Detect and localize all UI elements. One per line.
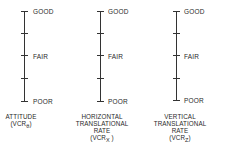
vcr-subscript: θ (26, 123, 29, 129)
vertical-caption: VERTICAL TRANSLATIONAL RATE (VCRZ) (144, 113, 216, 142)
attitude-label-poor: POOR (33, 98, 53, 105)
vertical-tick-4 (173, 78, 180, 79)
horizontal-caption-line-1: HORIZONTAL (66, 113, 138, 120)
horizontal-tick-2 (97, 33, 104, 34)
vcr-prefix: (VCR (10, 120, 26, 127)
attitude-label-good: GOOD (33, 8, 54, 15)
horizontal-caption: HORIZONTAL TRANSLATIONAL RATE (VCRX ) (66, 113, 138, 142)
vertical-tick-fair (173, 55, 180, 56)
horizontal-tick-4 (97, 78, 104, 79)
vertical-caption-line-3: RATE (144, 127, 216, 134)
horizontal-caption-symbol: (VCRX ) (66, 134, 138, 142)
horizontal-axis (100, 11, 101, 101)
vcr-close: ) (110, 134, 114, 141)
horizontal-caption-line-3: RATE (66, 127, 138, 134)
vertical-caption-line-1: VERTICAL (144, 113, 216, 120)
vcr-subscript: Z (185, 137, 188, 143)
vertical-label-fair: FAIR (184, 53, 199, 60)
vertical-label-poor: POOR (184, 97, 204, 104)
vertical-tick-poor (173, 100, 180, 101)
attitude-tick-good (21, 11, 28, 12)
attitude-tick-fair (21, 55, 28, 56)
vcr-close: ) (29, 120, 31, 127)
attitude-label-fair: FAIR (33, 53, 48, 60)
vertical-label-good: GOOD (184, 8, 205, 15)
attitude-caption-symbol: (VCRθ) (0, 120, 42, 128)
vertical-tick-2 (173, 33, 180, 34)
vertical-caption-symbol: (VCRZ) (144, 134, 216, 142)
attitude-caption: ATTITUDE (VCRθ) (0, 113, 42, 128)
horizontal-label-good: GOOD (108, 8, 129, 15)
vertical-axis (176, 11, 177, 101)
vcr-subscript: X (106, 137, 110, 143)
horizontal-tick-poor (97, 101, 104, 102)
attitude-caption-title: ATTITUDE (0, 113, 42, 120)
vertical-caption-line-2: TRANSLATIONAL (144, 120, 216, 127)
horizontal-caption-line-2: TRANSLATIONAL (66, 120, 138, 127)
horizontal-label-poor: POOR (108, 98, 128, 105)
vcr-prefix: (VCR (90, 134, 106, 141)
horizontal-label-fair: FAIR (108, 53, 123, 60)
vcr-prefix: (VCR (169, 134, 185, 141)
horizontal-tick-fair (97, 55, 104, 56)
attitude-axis (24, 11, 25, 101)
attitude-tick-2 (21, 33, 28, 34)
attitude-tick-poor (21, 101, 28, 102)
attitude-tick-4 (21, 78, 28, 79)
visual-cue-rating-scales: GOOD FAIR POOR ATTITUDE (VCRθ) GOOD FAIR… (0, 0, 226, 163)
horizontal-tick-good (97, 11, 104, 12)
vertical-tick-good (173, 11, 180, 12)
